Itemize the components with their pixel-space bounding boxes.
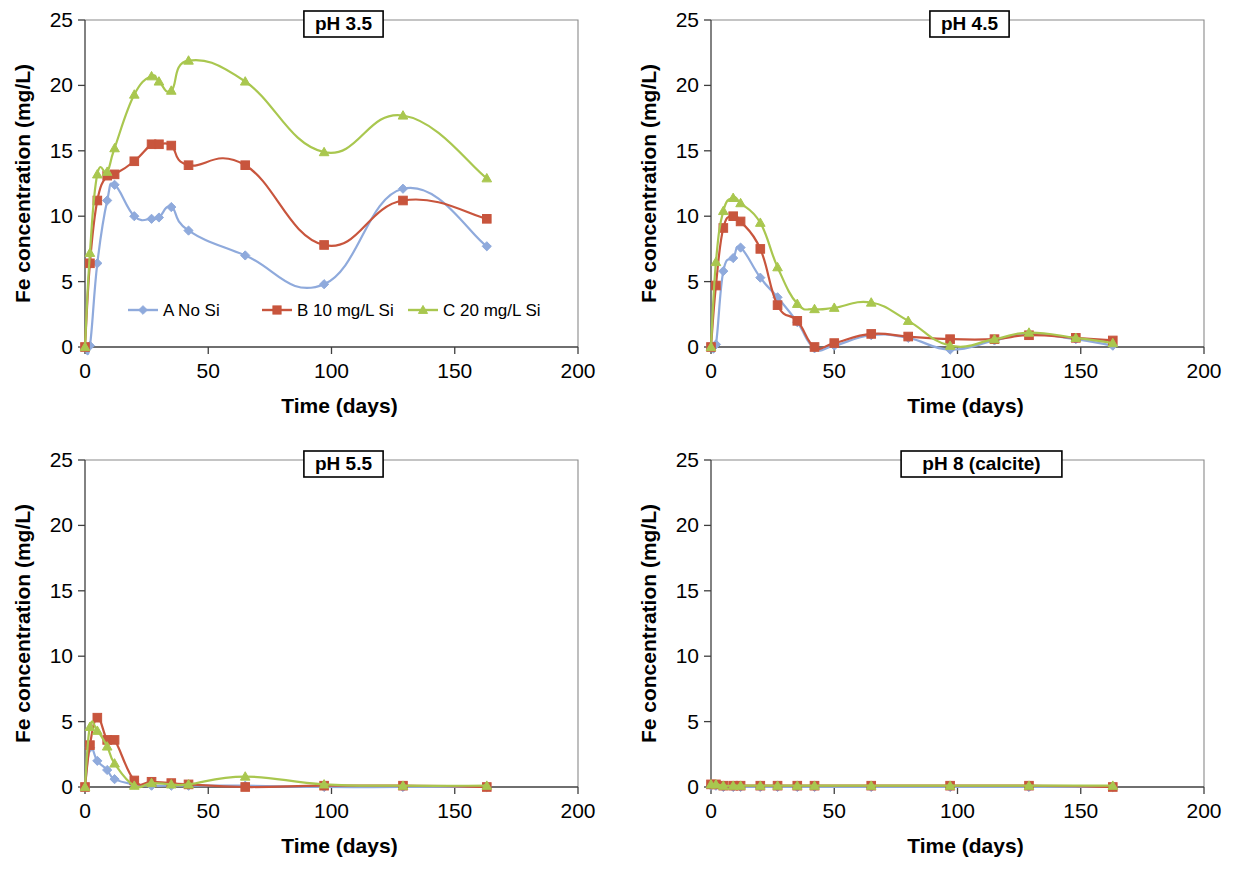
data-point-marker (184, 161, 193, 170)
x-tick-label: 200 (1186, 799, 1221, 822)
data-point-marker (398, 184, 407, 193)
x-axis-ticks: 050100150200 (705, 347, 1221, 382)
axes (85, 460, 578, 787)
axes (85, 20, 578, 347)
data-point-marker (793, 317, 802, 326)
data-point-marker (756, 245, 765, 254)
x-tick-label: 0 (705, 359, 717, 382)
series-3 (80, 721, 491, 790)
y-tick-label: 5 (61, 270, 73, 293)
y-tick-label: 10 (676, 644, 699, 667)
data-point-marker (93, 713, 102, 722)
data-point-marker (482, 215, 491, 224)
data-point-marker (399, 196, 408, 205)
data-point-marker (810, 343, 819, 352)
y-tick-label: 10 (50, 644, 73, 667)
y-tick-label: 0 (61, 335, 73, 358)
x-tick-label: 50 (197, 799, 220, 822)
chart-panel-4: 0510152025050100150200Time (days)Fe conc… (626, 440, 1252, 880)
x-tick-label: 100 (940, 799, 975, 822)
y-tick-label: 10 (50, 204, 73, 227)
series-line (85, 183, 487, 354)
x-tick-label: 50 (197, 359, 220, 382)
y-tick-label: 0 (61, 775, 73, 798)
y-tick-label: 20 (50, 73, 73, 96)
x-axis-title: Time (days) (907, 394, 1023, 417)
y-tick-label: 5 (687, 710, 699, 733)
x-tick-label: 200 (560, 359, 595, 382)
legend-label: C 20 mg/L Si (443, 301, 541, 320)
data-point-marker (167, 141, 176, 150)
y-tick-label: 25 (676, 448, 699, 471)
panel-title: pH 3.5 (304, 11, 383, 37)
x-axis-ticks: 050100150200 (79, 347, 595, 382)
y-axis-title: Fe concentration (mg/L) (11, 64, 34, 303)
plot-frame (85, 20, 578, 347)
plot-frame (85, 460, 578, 787)
data-point-marker (719, 206, 729, 214)
plot-frame (711, 460, 1204, 787)
plot-frame (711, 20, 1204, 347)
y-tick-label: 5 (687, 270, 699, 293)
y-axis-title: Fe concentration (mg/L) (637, 504, 660, 743)
y-tick-label: 20 (676, 73, 699, 96)
axes (711, 20, 1204, 347)
y-tick-label: 15 (50, 139, 73, 162)
data-point-marker (85, 248, 95, 256)
x-tick-label: 150 (437, 799, 472, 822)
data-point-marker (110, 143, 120, 151)
chart-panel-2: 0510152025050100150200Time (days)Fe conc… (626, 0, 1252, 440)
y-tick-label: 0 (687, 775, 699, 798)
x-tick-label: 0 (705, 799, 717, 822)
chart-svg: 0510152025050100150200Time (days)Fe conc… (0, 440, 626, 880)
figure-root: 0510152025050100150200Time (days)Fe conc… (0, 0, 1252, 881)
legend-entry-3[interactable]: C 20 mg/L Si (408, 301, 541, 320)
chart-panel-1: 0510152025050100150200Time (days)Fe conc… (0, 0, 626, 440)
x-axis-title: Time (days) (281, 394, 397, 417)
series-line (85, 143, 487, 347)
data-point-marker (241, 783, 250, 792)
data-point-marker (241, 251, 250, 260)
legend-entry-1[interactable]: A No Si (128, 301, 220, 320)
data-point-marker (147, 214, 156, 223)
data-point-marker (867, 330, 876, 339)
x-axis-title: Time (days) (907, 834, 1023, 857)
x-axis-ticks: 050100150200 (705, 787, 1221, 822)
y-tick-label: 10 (676, 204, 699, 227)
y-tick-label: 20 (50, 513, 73, 536)
data-point-marker (241, 161, 250, 170)
y-axis-ticks: 0510152025 (676, 448, 711, 798)
x-axis-title: Time (days) (281, 834, 397, 857)
data-point-marker (736, 217, 745, 226)
panel-title-text: pH 3.5 (315, 13, 372, 34)
data-point-marker (904, 332, 913, 341)
x-tick-label: 150 (1063, 799, 1098, 822)
legend-entry-2[interactable]: B 10 mg/L Si (262, 301, 394, 320)
axes (711, 460, 1204, 787)
series-1 (80, 180, 491, 354)
y-tick-label: 5 (61, 710, 73, 733)
series-group (80, 713, 491, 791)
x-tick-label: 50 (823, 799, 846, 822)
data-point-marker (320, 241, 329, 250)
y-tick-label: 15 (50, 579, 73, 602)
series-2 (81, 140, 491, 351)
series-line (711, 784, 1113, 786)
panel-title-text: pH 8 (calcite) (922, 453, 1040, 474)
y-tick-label: 25 (676, 8, 699, 31)
data-point-marker (729, 253, 738, 262)
chart-panel-3: 0510152025050100150200Time (days)Fe conc… (0, 440, 626, 880)
legend-label: B 10 mg/L Si (297, 301, 394, 320)
data-point-marker (93, 170, 103, 178)
y-axis-ticks: 0510152025 (676, 8, 711, 358)
y-axis-ticks: 0510152025 (50, 8, 85, 358)
data-point-marker (166, 86, 176, 94)
x-tick-label: 100 (314, 359, 349, 382)
panel-title-text: pH 5.5 (315, 453, 372, 474)
legend-label: A No Si (163, 301, 220, 320)
y-tick-label: 15 (676, 139, 699, 162)
x-tick-label: 200 (1186, 359, 1221, 382)
legend: A No SiB 10 mg/L SiC 20 mg/L Si (128, 301, 541, 320)
y-tick-label: 20 (676, 513, 699, 536)
x-tick-label: 0 (79, 799, 91, 822)
